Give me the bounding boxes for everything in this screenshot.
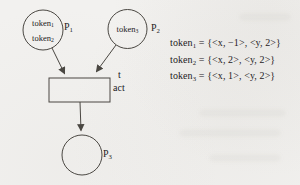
place-p1-tokens: token1 token2 (23, 17, 63, 47)
place-p3-label: P3 (103, 148, 112, 160)
transition-rect (49, 78, 110, 102)
transition-action-label: act (113, 82, 125, 93)
token-2-marking: token2 (23, 32, 63, 47)
equation-token-3: token3 = {<x, 1>, <y, 2>} (170, 70, 275, 82)
arc-t-to-p3 (80, 102, 81, 131)
place-p2-tokens: token3 (107, 23, 148, 38)
token-3-subscript: 3 (136, 28, 139, 34)
place-p1-label: P1 (64, 21, 73, 33)
place-p3-circle (62, 135, 102, 175)
token-1-text: token (32, 18, 51, 28)
token-1-subscript: 1 (51, 22, 54, 28)
equation-token-1: token1 = {<x, −1>, <y, 2>} (170, 37, 281, 49)
place-p2-label: P2 (151, 22, 160, 34)
token-1-marking: token1 (23, 17, 63, 32)
token-3-text: token (117, 24, 136, 34)
arc-p1-to-t (52, 48, 65, 74)
token-2-text: token (32, 33, 51, 43)
transition-name-label: t (118, 69, 121, 80)
figure-canvas: token1 token2 token3 P1 P2 P3 t act toke… (0, 0, 300, 185)
equation-token-2: token2 = {<x, 2>, <y, 2>} (170, 54, 275, 66)
arc-p2-to-t (97, 45, 117, 72)
token-3-marking: token3 (107, 23, 148, 38)
token-2-subscript: 2 (51, 37, 54, 43)
